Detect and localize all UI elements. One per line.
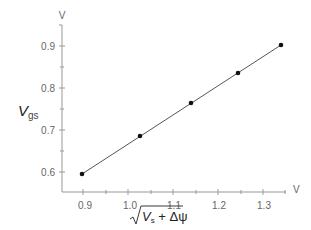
- data-point: [279, 43, 284, 48]
- y-tick-label: 0.8: [41, 83, 55, 94]
- x-tick-label: 1.0: [123, 200, 137, 211]
- y-axis-title: Vgs: [18, 102, 39, 121]
- x-axis-title: Vs + Δψ: [130, 206, 187, 225]
- data-point: [138, 134, 143, 139]
- chart: 0.9 0.8 0.7 0.6 0.9 1.0 1.1 1.2 1.3 V V …: [0, 0, 311, 230]
- x-tick-label: 1.2: [212, 200, 226, 211]
- x-tick-label: 0.9: [78, 200, 92, 211]
- x-tick-label: 1.3: [257, 200, 271, 211]
- y-tick-label: 0.6: [41, 167, 55, 178]
- y-unit-label: V: [59, 10, 66, 21]
- data-point: [236, 71, 241, 76]
- svg-text:Vs + Δψ: Vs + Δψ: [142, 209, 187, 225]
- data-point: [189, 101, 194, 106]
- fit-line: [82, 45, 281, 174]
- data-point: [80, 172, 85, 177]
- y-tick-label: 0.7: [41, 125, 55, 136]
- x-unit-label: V: [293, 184, 300, 195]
- y-tick-label: 0.9: [41, 41, 55, 52]
